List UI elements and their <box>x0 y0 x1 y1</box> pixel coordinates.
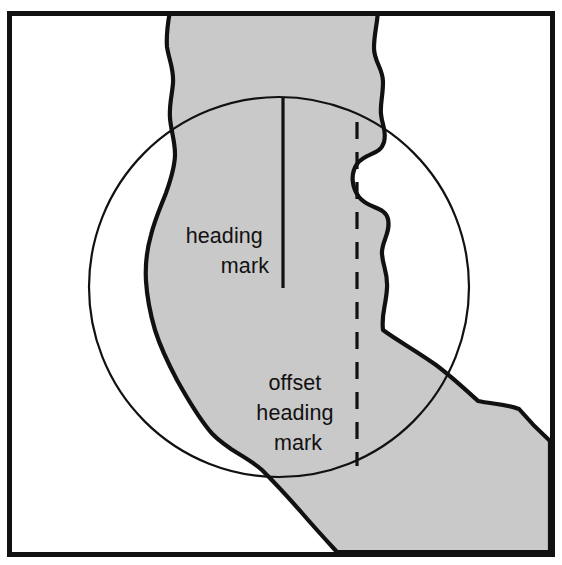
heading-mark-label-line-1: heading <box>186 224 263 248</box>
offset-heading-mark-label-line-3: mark <box>274 431 322 455</box>
offset-heading-mark-label-line-2: heading <box>256 401 333 425</box>
figure-container: heading mark offset heading mark <box>0 0 562 565</box>
heading-mark-diagram: heading mark offset heading mark <box>0 0 562 565</box>
heading-mark-label-line-2: mark <box>221 254 269 278</box>
offset-heading-mark-label-line-1: offset <box>269 371 322 395</box>
